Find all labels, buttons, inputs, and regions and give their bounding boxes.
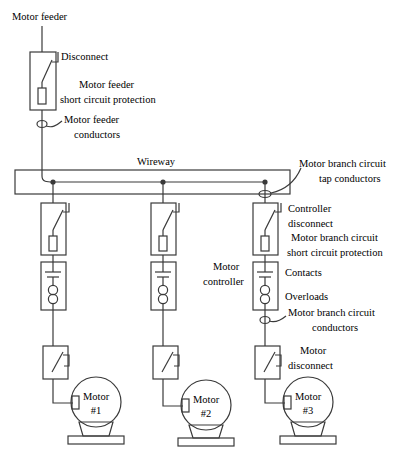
label-overloads: Overloads [285, 291, 328, 302]
motor-2-label-line2: #2 [201, 408, 212, 419]
label-motor-feeder-conductors-2: conductors [74, 129, 120, 140]
label-tap-conductors-1: Motor branch circuit [299, 158, 386, 169]
label-branch-scp-1: Motor branch circuit [291, 232, 378, 243]
branch-2-motor-disc-blade [162, 352, 173, 372]
label-disconnect: Disconnect [61, 51, 108, 62]
branch-2-motor-disconnect-box [153, 346, 178, 379]
label-motor-disconnect-1: Motor [300, 345, 327, 356]
branch-1-motor-lead [53, 379, 73, 403]
motor-1-label-line1: Motor [83, 391, 110, 402]
label-motor-feeder-scp-2: short circuit protection [60, 94, 156, 105]
label-motor-disconnect-2: disconnect [288, 360, 333, 371]
feeder-fuse-symbol [38, 88, 46, 104]
branch-3-fuse-symbol [261, 236, 269, 251]
motor-3-base [280, 436, 336, 444]
branch-2-fuse-symbol [159, 236, 167, 251]
disconnect-leader [52, 52, 58, 62]
label-motor-feeder: Motor feeder [12, 11, 68, 22]
label-branch-conductors-2: conductors [312, 322, 358, 333]
branch-2-disconnect-blade [163, 210, 173, 230]
branch-1-overload-loop-upper [48, 285, 57, 294]
label-tap-conductors-2: tap conductors [319, 173, 381, 184]
motor-1-terminal-box [72, 396, 79, 409]
label-motor-controller-2: controller [203, 276, 244, 287]
label-motor-feeder-conductors-1: Motor feeder [64, 114, 120, 125]
feeder-conductors-leader [46, 121, 62, 127]
branch-1-overload-loop-lower [48, 294, 57, 303]
motor-1-label-line2: #1 [91, 405, 102, 416]
branch-3-overload-loop-upper [260, 285, 269, 294]
branch-3-motor-disconnect-box [255, 346, 280, 379]
motor-1-base [68, 436, 124, 444]
label-branch-conductors-1: Motor branch circuit [288, 307, 375, 318]
branch-3-disconnect-blade [265, 210, 275, 230]
branch-conductors-leader [269, 316, 286, 322]
branch-3-motor-disc-blade [264, 352, 275, 372]
motor-2-terminal-box [182, 399, 189, 412]
motor-2-label-line1: Motor [193, 394, 220, 405]
diagram-canvas: Motor feeder Disconnect Motor feeder sho… [0, 0, 405, 452]
label-controller-disconnect-2: disconnect [288, 218, 333, 229]
label-controller-disconnect-1: Controller [288, 203, 332, 214]
label-wireway: Wireway [137, 156, 176, 167]
motor-3-terminal-box [284, 396, 291, 409]
branch-3-motor-lead [265, 379, 285, 403]
motor-circuit-diagram: Motor feeder Disconnect Motor feeder sho… [0, 0, 405, 452]
label-motor-feeder-scp-1: Motor feeder [79, 79, 135, 90]
branch-3-overload-loop-lower [260, 294, 269, 303]
branch-1-disconnect-blade [53, 210, 63, 230]
branch-2-overload-loop-upper [158, 285, 167, 294]
label-motor-controller-1: Motor [213, 261, 240, 272]
branch-1-motor-disconnect-box [43, 346, 68, 379]
tap-conductors-leader [271, 168, 301, 193]
branch-2-overload-loop-lower [158, 294, 167, 303]
motor-3-label-line2: #3 [303, 405, 314, 416]
motor-3-label-line1: Motor [295, 391, 322, 402]
branch-1-fuse-symbol [49, 236, 57, 251]
branch-2-motor-lead [163, 379, 183, 406]
label-contacts: Contacts [285, 267, 322, 278]
branch-1-motor-disc-blade [52, 352, 63, 372]
label-branch-scp-2: short circuit protection [287, 247, 383, 258]
motor-2-base [178, 438, 234, 446]
feeder-disconnect-blade [42, 60, 52, 82]
